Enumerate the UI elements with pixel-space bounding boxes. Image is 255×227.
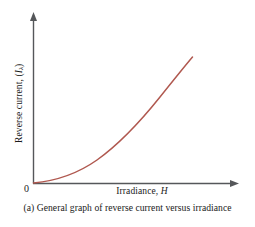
y-axis-label-subscript: λ [17, 67, 24, 70]
y-axis-label-text: Reverse current, ( [14, 73, 24, 143]
x-axis-label-variable: H [161, 186, 168, 196]
x-axis-label-text: Irradiance, [116, 186, 160, 196]
y-axis-label-close-paren: ) [14, 64, 24, 67]
x-axis-label: Irradiance, H [97, 186, 187, 196]
figure-caption: (a) General graph of reverse current ver… [0, 202, 255, 213]
origin-label: 0 [24, 183, 29, 194]
y-axis-label: Reverse current, (Iλ) [14, 43, 25, 163]
y-axis-arrowhead [30, 12, 37, 21]
x-axis-arrowhead [230, 180, 239, 187]
y-axis-label-variable: I [14, 70, 24, 73]
reverse-current-curve [34, 57, 193, 183]
figure-container: Reverse current, (Iλ) Irradiance, H 0 (a… [0, 0, 255, 227]
